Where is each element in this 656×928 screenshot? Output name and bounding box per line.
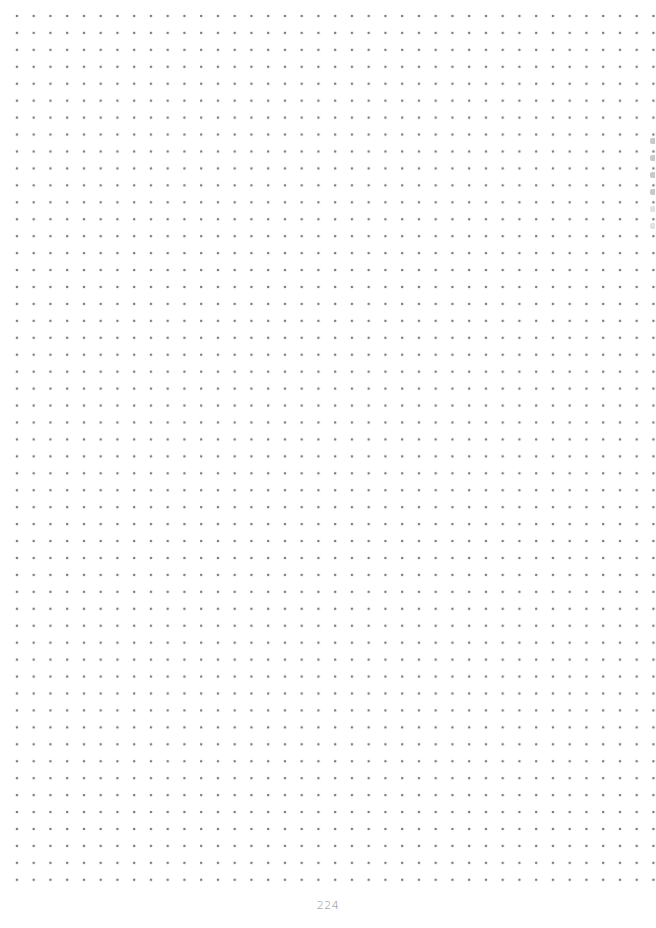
edge-mark [650, 223, 655, 229]
edge-mark [650, 138, 655, 144]
edge-tab-marks [650, 138, 656, 240]
notebook-page: 224 [0, 0, 656, 928]
edge-mark [650, 155, 655, 161]
edge-mark [650, 189, 655, 195]
dot-grid [8, 7, 656, 891]
page-number: 224 [0, 899, 656, 912]
edge-mark [650, 172, 655, 178]
edge-mark [650, 206, 655, 212]
